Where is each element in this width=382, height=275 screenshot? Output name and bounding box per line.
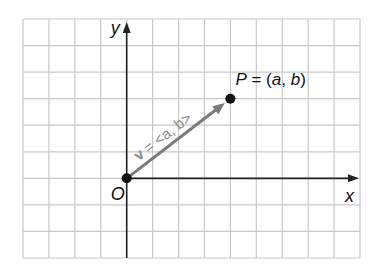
y-axis-label: y (109, 18, 121, 38)
point-p (225, 94, 235, 104)
point-p-label: P = (a, b) (235, 70, 305, 89)
coordinate-plane: y x O P = (a, b) v = <a, b> (0, 0, 382, 275)
vector-label: v = <a, b> (130, 109, 194, 164)
x-axis-label: x (344, 186, 355, 206)
origin-point (122, 173, 132, 183)
origin-label: O (111, 184, 125, 204)
grid-lines (23, 19, 360, 258)
